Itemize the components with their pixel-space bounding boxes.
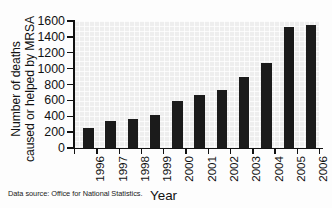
x-axis-tick bbox=[119, 148, 120, 154]
y-axis-tick-label: 800 bbox=[3, 78, 67, 92]
y-axis-tick-label: 600 bbox=[3, 93, 67, 107]
x-axis-tick-label: 1998 bbox=[138, 156, 151, 182]
bar bbox=[261, 63, 272, 148]
y-axis-tick-label: 1600 bbox=[3, 14, 67, 28]
x-axis-tick bbox=[141, 148, 142, 154]
x-axis-tick-label: 1999 bbox=[160, 156, 173, 182]
bar bbox=[172, 101, 183, 148]
y-axis-tick bbox=[67, 147, 74, 148]
bar bbox=[306, 25, 317, 148]
x-axis-tick bbox=[274, 148, 275, 154]
y-axis-tick bbox=[67, 100, 74, 101]
y-axis-tick-label: 1000 bbox=[3, 62, 67, 76]
x-axis-tick-label: 2005 bbox=[294, 156, 307, 182]
x-axis-tick-label: 2002 bbox=[227, 156, 240, 182]
bar bbox=[128, 119, 139, 148]
bar bbox=[105, 121, 116, 148]
plot-area bbox=[74, 21, 319, 148]
bar bbox=[194, 95, 205, 148]
x-axis-tick bbox=[96, 148, 97, 154]
x-axis-line bbox=[67, 148, 323, 150]
x-axis-tick-label: 2003 bbox=[249, 156, 262, 182]
x-axis-tick bbox=[74, 148, 75, 154]
x-axis-tick bbox=[208, 148, 209, 154]
x-axis-tick bbox=[319, 148, 320, 154]
y-axis-tick bbox=[67, 20, 74, 21]
y-axis-tick bbox=[67, 131, 74, 132]
bar bbox=[83, 128, 94, 148]
x-axis-tick-label: 2004 bbox=[272, 156, 285, 182]
y-axis-tick bbox=[67, 68, 74, 69]
y-axis-tick bbox=[67, 116, 74, 117]
x-axis-tick-label: 1996 bbox=[93, 156, 106, 182]
y-axis-tick bbox=[67, 36, 74, 37]
y-axis-tick-label: 0 bbox=[3, 141, 67, 155]
data-source-note: Data source: Office for National Statist… bbox=[8, 189, 142, 198]
y-axis-tick bbox=[67, 52, 74, 53]
x-axis-tick bbox=[252, 148, 253, 154]
y-axis-tick-label: 200 bbox=[3, 125, 67, 139]
x-axis-tick bbox=[163, 148, 164, 154]
x-axis-tick bbox=[230, 148, 231, 154]
y-axis-tick bbox=[67, 84, 74, 85]
bar bbox=[150, 115, 161, 148]
y-axis-tick-labels: 02004006008001000120014001600 bbox=[0, 0, 67, 208]
x-axis-title: Year bbox=[150, 188, 177, 203]
x-axis-tick-label: 1997 bbox=[116, 156, 129, 182]
x-axis-tick-label: 2006 bbox=[316, 156, 329, 182]
y-axis-tick-label: 1200 bbox=[3, 46, 67, 60]
x-axis-tick-label: 2000 bbox=[182, 156, 195, 182]
x-axis-tick bbox=[297, 148, 298, 154]
x-axis-tick-label: 2001 bbox=[205, 156, 218, 182]
x-axis-tick bbox=[185, 148, 186, 154]
bar bbox=[284, 27, 295, 148]
y-axis-tick-label: 400 bbox=[3, 109, 67, 123]
y-axis-tick-label: 1400 bbox=[3, 30, 67, 44]
bar-chart-figure: Number of deaths caused or helped by MRS… bbox=[0, 0, 332, 208]
bar bbox=[239, 77, 250, 148]
bar bbox=[217, 90, 228, 148]
